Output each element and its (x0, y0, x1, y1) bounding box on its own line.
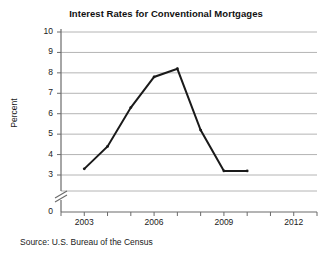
y-axis-tick-label: 3 (33, 170, 53, 179)
x-axis-tick-label: 2009 (204, 218, 244, 227)
source-note: Source: U.S. Bureau of the Census (20, 237, 153, 247)
x-axis-tick-label: 2006 (134, 218, 174, 227)
data-point (223, 170, 226, 173)
data-point (83, 167, 86, 170)
data-point (199, 129, 202, 132)
y-axis-tick-label: 8 (33, 68, 53, 77)
data-point (246, 170, 249, 173)
data-point (153, 76, 156, 79)
data-line-interest-rate (84, 69, 247, 171)
y-axis-tick-label: 6 (33, 109, 53, 118)
data-point (106, 145, 109, 148)
chart-title: Interest Rates for Conventional Mortgage… (0, 8, 332, 19)
y-axis-tick-label: 4 (33, 150, 53, 159)
y-axis-tick-label: 10 (33, 27, 53, 36)
x-axis-tick-label: 2012 (274, 218, 314, 227)
data-point (176, 67, 179, 70)
data-point (129, 106, 132, 109)
y-axis-tick-label: 9 (33, 47, 53, 56)
y-axis-title: Percent (9, 83, 19, 143)
y-axis-tick-label: 7 (33, 88, 53, 97)
y-axis-tick-label: 0 (33, 207, 53, 216)
y-axis-tick-label: 5 (33, 129, 53, 138)
x-axis-tick-label: 2003 (64, 218, 104, 227)
axis-break-slash-upper (55, 191, 67, 198)
chart-figure: Interest Rates for Conventional Mortgage… (0, 0, 332, 257)
